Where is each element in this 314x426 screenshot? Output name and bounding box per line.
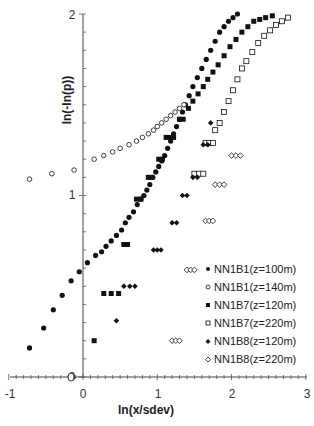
- data-point: [208, 120, 214, 126]
- data-point: [27, 177, 32, 182]
- data-point: [168, 113, 173, 118]
- data-point: [181, 117, 186, 122]
- series-nn1b7-z-220m-: [192, 15, 291, 176]
- data-point: [235, 77, 240, 82]
- legend-label: NN1B8(z=120m): [214, 335, 296, 347]
- data-point: [134, 197, 139, 202]
- x-tick-label: 3: [304, 387, 311, 401]
- legend-item: NN1B8(z=220m): [206, 353, 297, 365]
- data-point: [182, 102, 187, 107]
- open-circle-marker-icon: [206, 285, 210, 289]
- data-point: [109, 238, 114, 243]
- weibull-scatter-chart: -1 0 1 2 3 0 1 2 ln(x/sdev) ln(-ln(p)) N…: [0, 0, 314, 426]
- data-point: [164, 117, 169, 122]
- data-point: [101, 291, 106, 296]
- data-point: [140, 135, 145, 140]
- legend-label: NN1B1(z=140m): [214, 281, 296, 293]
- data-point: [177, 106, 182, 111]
- data-point: [262, 33, 267, 38]
- legend-item: NN1B7(z=220m): [206, 317, 296, 329]
- data-point: [239, 30, 244, 35]
- data-point: [238, 153, 244, 159]
- data-point: [279, 19, 284, 24]
- data-point: [116, 291, 121, 296]
- data-point: [244, 59, 249, 64]
- data-point: [41, 325, 46, 330]
- data-point: [135, 202, 140, 207]
- data-point: [51, 307, 56, 312]
- data-point: [114, 318, 120, 324]
- x-tick-label: 1: [155, 387, 162, 401]
- data-point: [93, 253, 98, 258]
- data-point: [274, 22, 279, 27]
- data-point: [132, 283, 138, 289]
- legend-label: NN1B7(z=120m): [214, 299, 296, 311]
- data-point: [126, 215, 131, 220]
- data-point: [230, 15, 235, 20]
- open-diamond-marker-icon: [206, 357, 211, 362]
- series-nn1b8-z-120m-: [114, 120, 214, 323]
- data-point: [134, 139, 139, 144]
- data-point: [155, 124, 160, 129]
- data-point: [221, 182, 227, 188]
- data-point: [257, 17, 262, 22]
- data-point: [159, 121, 164, 126]
- data-point: [85, 260, 90, 265]
- data-point: [27, 345, 32, 350]
- data-point: [196, 91, 201, 96]
- data-point: [158, 247, 164, 253]
- data-point: [285, 15, 290, 20]
- data-point: [239, 66, 244, 71]
- x-tick-label: 0: [80, 387, 87, 401]
- data-point: [201, 171, 206, 176]
- legend-label: NN1B8(z=220m): [214, 353, 296, 365]
- data-point: [190, 99, 195, 104]
- filled-diamond-marker-icon: [206, 339, 211, 344]
- data-point: [222, 53, 227, 58]
- data-point: [127, 142, 132, 147]
- legend-item: NN1B1(z=100m): [206, 263, 296, 275]
- series-nn1b8-z-220m-: [169, 153, 243, 344]
- data-point: [217, 30, 222, 35]
- series-nn1b1-z-140m-: [27, 102, 186, 181]
- legend: NN1B1(z=100m) NN1B1(z=140m) NN1B7(z=120m…: [206, 263, 297, 365]
- data-point: [119, 227, 124, 232]
- data-point: [204, 57, 209, 62]
- data-point: [199, 66, 204, 71]
- data-point: [131, 209, 136, 214]
- data-point: [208, 48, 213, 53]
- x-axis-ticks: [9, 374, 306, 380]
- data-point: [201, 84, 206, 89]
- data-point: [222, 110, 227, 115]
- y-tick-labels: 0 1 2: [69, 8, 76, 384]
- data-point: [174, 124, 179, 129]
- legend-item: NN1B7(z=120m): [206, 299, 296, 311]
- data-point: [205, 77, 210, 82]
- data-point: [103, 244, 108, 249]
- data-point: [114, 233, 119, 238]
- data-point: [210, 218, 216, 224]
- data-point: [186, 106, 191, 111]
- data-point: [228, 44, 233, 49]
- x-tick-label: -1: [5, 387, 16, 401]
- data-point: [121, 283, 127, 289]
- data-point: [72, 168, 77, 173]
- data-point: [149, 175, 154, 180]
- data-point: [270, 13, 275, 18]
- data-point: [160, 157, 165, 162]
- data-point: [210, 140, 215, 145]
- data-point: [171, 135, 176, 140]
- data-point: [226, 19, 231, 24]
- y-tick-label: 1: [69, 188, 76, 202]
- y-tick-label: 2: [69, 8, 76, 22]
- data-point: [146, 131, 151, 136]
- data-point: [156, 164, 161, 169]
- data-point: [184, 193, 190, 199]
- series-nn1b1-z-100m-: [27, 11, 240, 350]
- data-point: [127, 283, 133, 289]
- data-point: [118, 146, 123, 151]
- data-point: [50, 171, 55, 176]
- data-point: [99, 249, 104, 254]
- y-axis-title: ln(-ln(p)): [60, 76, 74, 125]
- data-point: [144, 187, 149, 192]
